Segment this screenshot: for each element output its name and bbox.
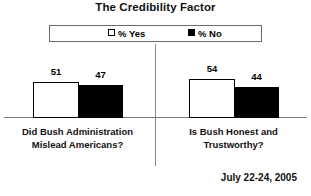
category-label-mislead: Did Bush Administration Mislead American… (2, 126, 153, 151)
bar-honest-no (234, 87, 279, 118)
legend-label-yes: % Yes (118, 28, 145, 39)
bar-value-mislead-no: 47 (78, 69, 123, 80)
category-label-honest-line1: Is Bush Honest and (158, 126, 309, 139)
category-label-honest: Is Bush Honest and Trustworthy? (158, 126, 309, 151)
bar-value-mislead-yes: 51 (33, 66, 79, 77)
legend-label-no: % No (198, 28, 222, 39)
category-label-mislead-line1: Did Bush Administration (2, 126, 153, 139)
bar-group-mislead: 51 47 (0, 60, 155, 118)
bar-value-honest-no: 44 (234, 71, 279, 82)
legend-swatch-no-icon (188, 29, 195, 36)
legend-item-no: % No (188, 26, 222, 41)
legend-swatch-yes-icon (108, 29, 115, 36)
bar-group-honest: 54 44 (156, 60, 311, 118)
bar-mislead-no (78, 85, 123, 118)
chart-footnote-date: July 22-24, 2005 (221, 172, 297, 183)
credibility-factor-chart: The Credibility Factor % Yes % No 51 47 … (0, 0, 311, 196)
bar-mislead-yes (33, 82, 79, 118)
bar-value-honest-yes: 54 (189, 63, 235, 74)
chart-title: The Credibility Factor (0, 1, 311, 13)
category-label-mislead-line2: Mislead Americans? (2, 139, 153, 152)
bar-honest-yes (189, 79, 235, 118)
chart-legend: % Yes % No (49, 25, 262, 42)
legend-item-yes: % Yes (108, 26, 145, 41)
category-label-honest-line2: Trustworthy? (158, 139, 309, 152)
